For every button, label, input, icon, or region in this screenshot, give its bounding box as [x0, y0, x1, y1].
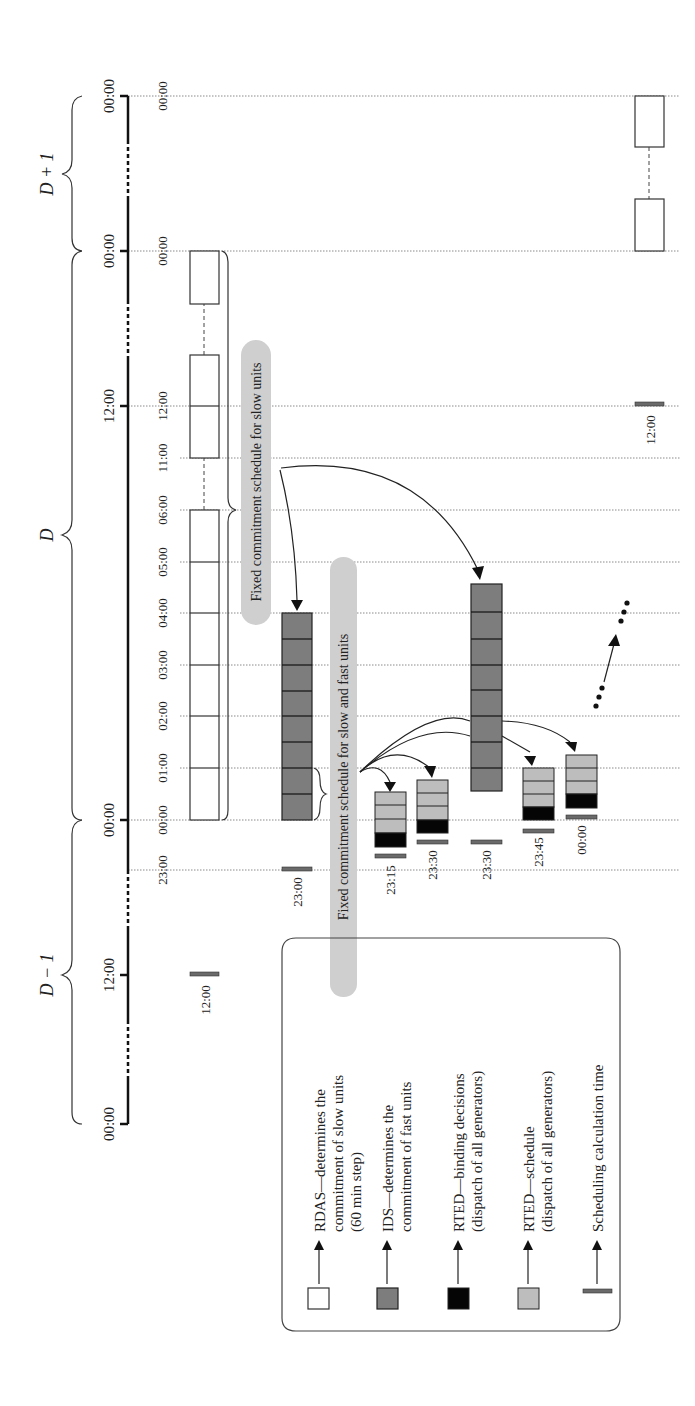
calc-marker-rted-2315 — [375, 854, 406, 858]
svg-text:23:45: 23:45 — [531, 837, 546, 867]
grid-time-labels: 00:00 00:00 12:00 11:00 06:00 05:00 04:0… — [155, 81, 170, 885]
day-label-d: D — [37, 529, 57, 543]
svg-text:01:00: 01:00 — [155, 753, 170, 783]
svg-text:23:00: 23:00 — [155, 855, 170, 885]
svg-text:11:00: 11:00 — [155, 443, 170, 472]
rdas-day-d-schedule: 12:00 — [190, 251, 236, 1015]
legend-item-rted-binding: RTED—binding decisions (dispatch of all … — [448, 1071, 486, 1309]
callout-slow-fast-units: Fixed commitment schedule for slow and f… — [330, 557, 357, 997]
calc-marker-ids-2 — [471, 840, 502, 844]
svg-text:04:00: 04:00 — [155, 598, 170, 628]
svg-text:23:00: 23:00 — [290, 877, 305, 907]
calc-marker-rdas — [190, 972, 219, 976]
svg-text:Fixed commitment schedule for: Fixed commitment schedule for slow units — [249, 362, 264, 601]
rted-block-2330: 23:30 — [417, 780, 448, 880]
svg-text:03:00: 03:00 — [155, 650, 170, 680]
calc-time-swatch-icon — [583, 1289, 612, 1293]
rdas-swatch-icon — [308, 1288, 329, 1309]
svg-text:02:00: 02:00 — [155, 701, 170, 731]
slow-commitment-arrows — [280, 466, 484, 611]
rted-block-2315: 23:15 — [375, 792, 406, 895]
svg-text:00:00: 00:00 — [155, 805, 170, 835]
rdas-day-d-plus-1-schedule: 12:00 — [635, 96, 664, 445]
svg-text:RTED—schedule: RTED—schedule — [521, 1126, 537, 1232]
svg-text:12:00: 12:00 — [155, 391, 170, 421]
continuation-indicator — [593, 600, 629, 708]
svg-text:commitment of fast units: commitment of fast units — [398, 1081, 414, 1232]
svg-text:05:00: 05:00 — [155, 547, 170, 577]
tick-dm1-start: 00:00 — [101, 1107, 117, 1141]
legend-item-calc-time: Scheduling calculation time — [583, 1064, 612, 1293]
svg-text:RDAS—determines the: RDAS—determines the — [312, 1089, 328, 1232]
calc-marker-ids-1 — [282, 867, 312, 871]
svg-text:Fixed commitment schedule for: Fixed commitment schedule for slow and f… — [336, 634, 351, 921]
timeline-axis — [120, 96, 128, 1124]
ids-block-2: 23:30 — [471, 584, 502, 880]
svg-text:23:15: 23:15 — [383, 865, 398, 895]
ids-swatch-icon — [377, 1288, 398, 1309]
svg-text:23:30: 23:30 — [425, 850, 440, 880]
rted-schedule-swatch-icon — [518, 1288, 539, 1309]
calc-marker-rdas-next — [635, 402, 664, 406]
svg-text:(60 min step): (60 min step) — [348, 1152, 365, 1232]
day-label-d-minus-1: D − 1 — [37, 953, 57, 997]
calc-marker-rted-2345 — [523, 829, 554, 833]
calc-marker-rted-2330 — [417, 840, 448, 844]
svg-text:00:00: 00:00 — [155, 81, 170, 111]
rted-block-0000: 00:00 — [566, 755, 597, 855]
svg-text:commitment of slow units: commitment of slow units — [330, 1075, 346, 1232]
calc-marker-rted-0000 — [566, 815, 597, 819]
axis-tick-labels: 00:00 00:00 12:00 00:00 12:00 00:00 — [101, 79, 117, 1141]
legend: RDAS—determines the commitment of slow u… — [282, 938, 620, 1331]
tick-dm1-mid: 12:00 — [101, 958, 117, 992]
legend-item-rted-schedule: RTED—schedule (dispatch of all generator… — [518, 1071, 556, 1309]
tick-d1-end: 00:00 — [101, 79, 117, 113]
day-braces: D + 1 D D − 1 — [37, 96, 82, 1124]
svg-text:12:00: 12:00 — [198, 985, 213, 1015]
svg-text:(dispatch of all generators): (dispatch of all generators) — [539, 1071, 556, 1232]
rted-block-2345: 23:45 — [523, 768, 554, 867]
svg-text:00:00: 00:00 — [574, 825, 589, 855]
svg-text:06:00: 06:00 — [155, 495, 170, 525]
svg-text:12:00: 12:00 — [643, 415, 658, 445]
callout-slow-units: Fixed commitment schedule for slow units — [241, 340, 271, 625]
svg-text:(dispatch of all generators): (dispatch of all generators) — [469, 1071, 486, 1232]
tick-d-mid: 12:00 — [101, 389, 117, 423]
legend-item-ids: IDS—determines the commitment of fast un… — [377, 1081, 414, 1309]
tick-d-end: 00:00 — [101, 234, 117, 268]
legend-item-rdas: RDAS—determines the commitment of slow u… — [308, 1075, 365, 1309]
ids-block-1: 23:00 — [282, 613, 326, 907]
svg-text:RTED—binding decisions: RTED—binding decisions — [451, 1073, 467, 1232]
svg-text:23:30: 23:30 — [479, 850, 494, 880]
rted-binding-swatch-icon — [448, 1288, 469, 1309]
svg-text:Scheduling calculation time: Scheduling calculation time — [590, 1064, 606, 1232]
tick-d-start: 00:00 — [101, 803, 117, 837]
day-label-d-plus-1: D + 1 — [37, 152, 57, 196]
svg-text:00:00: 00:00 — [155, 236, 170, 266]
scheduling-diagram: 00:00 00:00 12:00 00:00 12:00 00:00 D + … — [0, 0, 695, 1406]
svg-text:IDS—determines the: IDS—determines the — [380, 1105, 396, 1232]
